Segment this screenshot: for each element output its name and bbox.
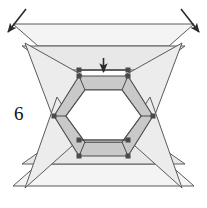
vertex-top-left-inner	[77, 68, 82, 73]
vertex-bottom-right-hex	[126, 154, 131, 159]
top-outer-trapezoid-band	[13, 24, 194, 46]
vertex-top-right-inner	[126, 68, 131, 73]
figure-label: 6	[14, 103, 24, 124]
hexagonal-net-diagram: 6	[0, 0, 207, 208]
vertex-top-right-hex	[126, 74, 131, 79]
vertex-right-hex	[151, 114, 156, 119]
vertex-bottom-left-hex	[77, 154, 82, 159]
vertex-top-left-hex	[77, 74, 82, 79]
figure-container: 6	[0, 0, 207, 208]
vertex-bottom-right-inner	[126, 138, 131, 143]
vertex-left-hex	[52, 114, 57, 119]
vertex-bottom-left-inner	[77, 138, 82, 143]
